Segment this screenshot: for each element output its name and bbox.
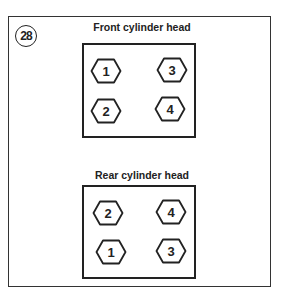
rear-head-title: Rear cylinder head	[60, 169, 224, 181]
bolt-number: 4	[154, 96, 186, 122]
figure-number: 28	[20, 29, 31, 43]
bolt-number: 2	[92, 200, 124, 226]
figure-number-badge: 28	[15, 25, 37, 47]
front-bolt-1: 1	[90, 58, 122, 84]
bolt-number: 1	[95, 239, 127, 265]
bolt-number: 1	[90, 58, 122, 84]
front-bolt-4: 4	[154, 96, 186, 122]
front-bolt-2: 2	[90, 98, 122, 124]
bolt-number: 4	[155, 199, 187, 225]
bolt-number: 3	[155, 238, 187, 264]
rear-bolt-1: 1	[95, 239, 127, 265]
front-bolt-3: 3	[156, 57, 188, 83]
bolt-number: 3	[156, 57, 188, 83]
rear-bolt-3: 3	[155, 238, 187, 264]
rear-bolt-4: 4	[155, 199, 187, 225]
front-head-title: Front cylinder head	[60, 21, 224, 33]
bolt-number: 2	[90, 98, 122, 124]
rear-bolt-2: 2	[92, 200, 124, 226]
